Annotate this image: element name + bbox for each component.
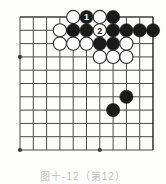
white-stone-disc[interactable] (53, 24, 66, 37)
black-stone[interactable] (107, 24, 120, 37)
black-stone[interactable] (107, 10, 120, 23)
black-stone[interactable] (133, 24, 146, 37)
black-stone-disc[interactable] (107, 24, 120, 37)
black-stone-disc[interactable] (120, 24, 133, 37)
white-stone-disc[interactable] (107, 50, 120, 63)
black-stone-disc[interactable] (67, 24, 80, 37)
stone-move-number: 2 (97, 26, 102, 36)
white-stone-disc[interactable] (93, 10, 106, 23)
white-stone[interactable] (67, 37, 80, 50)
black-stone[interactable]: 1 (80, 10, 93, 23)
white-stone[interactable] (53, 24, 66, 37)
black-stone[interactable] (107, 104, 120, 117)
stone-move-number: 1 (84, 12, 89, 22)
star-point (18, 148, 22, 152)
figure-caption: 图十-12（第12） (0, 168, 166, 184)
white-stone[interactable] (120, 37, 133, 50)
white-stone-disc[interactable] (80, 37, 93, 50)
white-stone[interactable]: 2 (93, 24, 106, 37)
white-stone[interactable] (80, 37, 93, 50)
black-stone-disc[interactable] (146, 24, 159, 37)
white-stone-disc[interactable] (67, 37, 80, 50)
black-stone[interactable] (107, 37, 120, 50)
black-stone[interactable] (120, 24, 133, 37)
white-stone-disc[interactable] (120, 50, 133, 63)
white-stone-disc[interactable] (120, 37, 133, 50)
black-stone[interactable] (93, 37, 106, 50)
black-stone-disc[interactable] (107, 104, 120, 117)
white-stone[interactable] (120, 50, 133, 63)
go-diagram-figure: 12 图十-12（第12） (0, 0, 166, 184)
go-board-canvas[interactable]: 12 (0, 0, 166, 160)
black-stone-disc[interactable] (80, 24, 93, 37)
black-stone-disc[interactable] (93, 37, 106, 50)
star-point (98, 148, 102, 152)
star-point (18, 55, 22, 59)
black-stone[interactable] (80, 24, 93, 37)
white-stone-disc[interactable] (93, 50, 106, 63)
go-board[interactable]: 12 (0, 0, 166, 160)
white-stone[interactable] (53, 37, 66, 50)
black-stone[interactable] (120, 90, 133, 103)
black-stone[interactable] (146, 24, 159, 37)
white-stone[interactable] (93, 50, 106, 63)
black-stone-disc[interactable] (107, 37, 120, 50)
white-stone[interactable] (107, 50, 120, 63)
black-stone-disc[interactable] (133, 24, 146, 37)
white-stone-disc[interactable] (67, 10, 80, 23)
black-stone-disc[interactable] (107, 10, 120, 23)
black-stone-disc[interactable] (120, 90, 133, 103)
stones-layer[interactable]: 12 (53, 10, 159, 116)
white-stone[interactable] (67, 10, 80, 23)
black-stone[interactable] (67, 24, 80, 37)
white-stone[interactable] (93, 10, 106, 23)
white-stone-disc[interactable] (53, 37, 66, 50)
